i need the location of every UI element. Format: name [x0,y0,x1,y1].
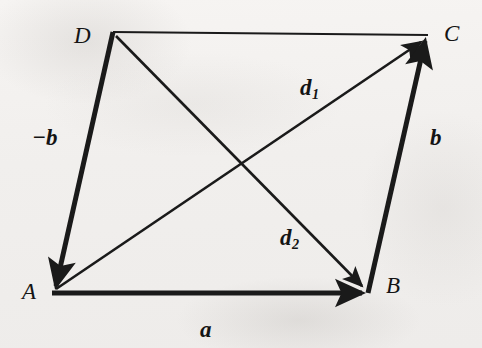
vector-label-a: a [200,318,212,341]
vector-label-neg-b: −b [32,126,57,149]
vector-label-b: b [430,126,442,149]
vector-neg-b-line [56,32,113,286]
vector-d1-line [56,42,421,289]
vector-diagram-figure: A B C D a b −b d1 d2 [0,0,482,348]
vector-d2-line [116,36,362,286]
vector-label-d2-base: d [280,225,292,250]
vector-label-d1-subscript: 1 [312,86,319,102]
vector-label-d2-subscript: 2 [292,236,299,252]
vector-label-d1-base: d [300,75,312,100]
vertex-label-D: D [74,24,91,47]
edge-D-to-C [113,32,428,35]
vertex-label-A: A [22,280,36,303]
vector-b-line [368,41,425,293]
vector-label-d1: d1 [300,76,319,101]
diagram-canvas [0,0,482,348]
vertex-label-C: C [444,22,459,45]
vertex-label-B: B [386,274,400,297]
vector-label-d2: d2 [280,226,299,251]
